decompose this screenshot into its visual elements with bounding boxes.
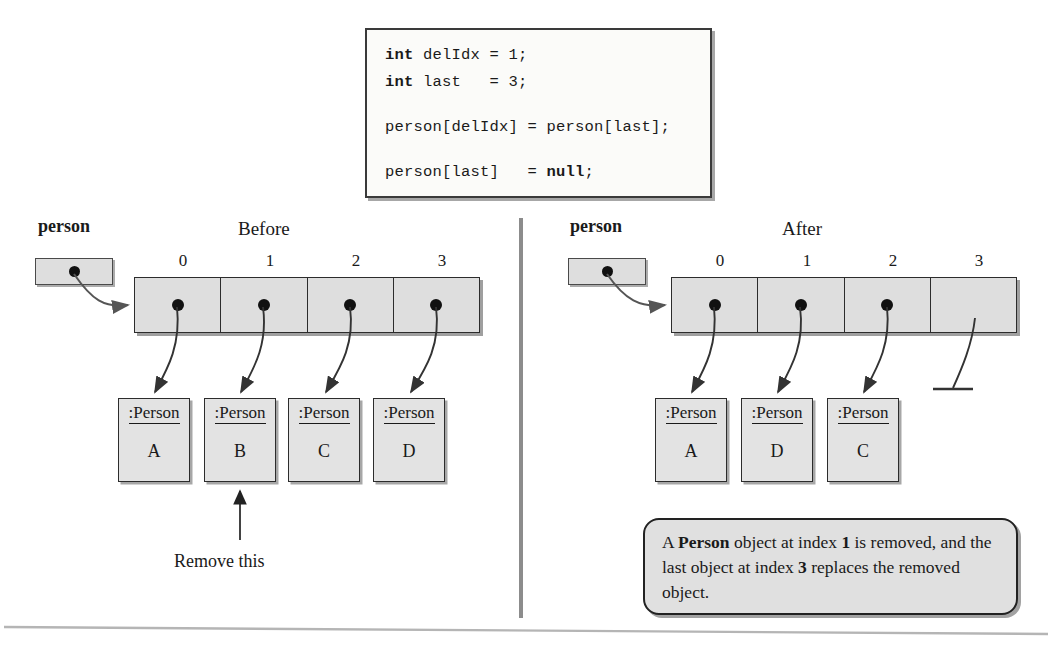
array-slot-dot	[258, 299, 270, 311]
array-slot-dot	[795, 299, 807, 311]
object-type-label: :Person	[828, 403, 898, 423]
array-slot-dot	[172, 299, 184, 311]
object-value-label: B	[205, 441, 275, 462]
before-index-label-0: 0	[168, 251, 198, 271]
object-value-label: D	[742, 441, 812, 462]
before-person-variable-label: person	[38, 216, 90, 237]
after-array-cell-1	[758, 278, 844, 332]
object-value-label: A	[656, 441, 726, 462]
explanation-note-text: A Person object at index 1 is removed, a…	[662, 530, 1002, 605]
after-person-reference-box	[568, 258, 646, 285]
before-array	[134, 277, 480, 333]
code-line: person[last] = null;	[385, 159, 670, 186]
code-line	[385, 141, 670, 159]
before-array-cell-3	[394, 278, 479, 332]
after-object-box-0: :Person A	[655, 398, 727, 482]
after-array	[671, 277, 1017, 333]
after-index-label-0: 0	[705, 251, 735, 271]
object-type-label: :Person	[289, 403, 359, 423]
after-index-label-3: 3	[964, 251, 994, 271]
after-array-cell-0	[672, 278, 758, 332]
array-slot-dot	[430, 299, 442, 311]
after-object-box-2: :Person C	[827, 398, 899, 482]
figure-canvas: int delIdx = 1;int last = 3;person[delId…	[0, 0, 1052, 649]
before-person-reference-box	[35, 258, 113, 285]
before-index-label-3: 3	[427, 251, 457, 271]
code-snippet-box: int delIdx = 1;int last = 3;person[delId…	[365, 28, 712, 198]
before-object-box-1: :Person B	[204, 398, 276, 482]
before-object-box-2: :Person C	[288, 398, 360, 482]
object-type-label: :Person	[656, 403, 726, 423]
object-type-label: :Person	[119, 403, 189, 423]
array-slot-dot	[344, 299, 356, 311]
after-object-box-1: :Person D	[741, 398, 813, 482]
before-array-cell-2	[308, 278, 394, 332]
object-value-label: D	[374, 441, 444, 462]
reference-dot	[602, 266, 613, 277]
object-type-label: :Person	[374, 403, 444, 423]
code-line	[385, 96, 670, 114]
before-object-box-0: :Person A	[118, 398, 190, 482]
object-value-label: C	[828, 441, 898, 462]
page-bottom-rule	[4, 627, 1048, 634]
before-array-cell-0	[135, 278, 221, 332]
after-index-label-2: 2	[878, 251, 908, 271]
object-type-label: :Person	[742, 403, 812, 423]
explanation-note-box: A Person object at index 1 is removed, a…	[643, 518, 1018, 615]
before-heading: Before	[238, 218, 290, 240]
before-array-cell-1	[221, 278, 307, 332]
after-heading: After	[782, 218, 822, 240]
after-person-variable-label: person	[570, 216, 622, 237]
object-value-label: A	[119, 441, 189, 462]
before-index-label-2: 2	[341, 251, 371, 271]
array-slot-dot	[881, 299, 893, 311]
reference-dot	[69, 266, 80, 277]
before-index-label-1: 1	[255, 251, 285, 271]
code-line: int last = 3;	[385, 69, 670, 96]
remove-this-annotation: Remove this	[174, 551, 265, 572]
code-line: int delIdx = 1;	[385, 42, 670, 69]
object-type-label: :Person	[205, 403, 275, 423]
code-snippet-text: int delIdx = 1;int last = 3;person[delId…	[385, 42, 670, 186]
before-object-box-3: :Person D	[373, 398, 445, 482]
object-value-label: C	[289, 441, 359, 462]
after-array-cell-2	[845, 278, 931, 332]
code-line: person[delIdx] = person[last];	[385, 114, 670, 141]
after-index-label-1: 1	[792, 251, 822, 271]
array-slot-dot	[709, 299, 721, 311]
after-array-cell-3-null	[931, 278, 1016, 332]
